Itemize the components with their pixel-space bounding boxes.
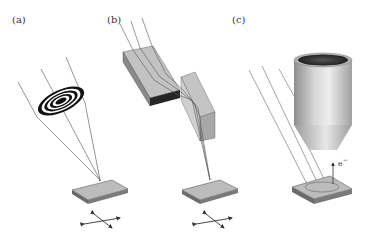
panel-label-c: (c): [232, 14, 245, 25]
panel-a: [18, 57, 128, 228]
diagram-canvas: [0, 0, 371, 242]
panel-label-b: (b): [107, 14, 121, 25]
zone-plate-icon: [34, 80, 89, 121]
vertical-mirror-icon: [181, 72, 215, 141]
xy-scan-arrows-icon: [196, 214, 232, 228]
panel-c: [249, 53, 352, 204]
electron-optics-column-icon: [294, 53, 352, 150]
panel-b: [120, 18, 238, 228]
sample-stage-icon: [72, 180, 128, 204]
electron-label: e−: [338, 156, 348, 168]
figure: (a) (b) (c) e−: [0, 0, 371, 242]
incident-rays: [18, 57, 100, 180]
sample-stage-icon: [182, 180, 238, 204]
panel-label-a: (a): [12, 14, 26, 25]
sample-stage-icon: [292, 176, 352, 204]
xy-scan-arrows-icon: [84, 214, 120, 228]
